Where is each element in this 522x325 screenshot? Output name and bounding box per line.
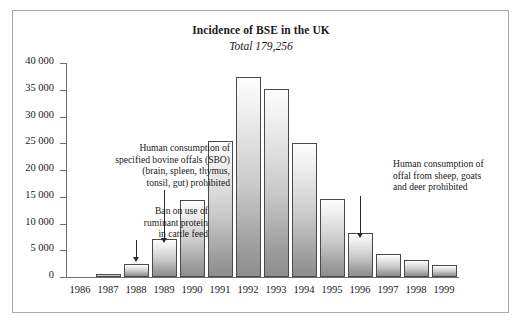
arrow-shaft xyxy=(360,196,361,233)
y-axis-tick-label: 30 000 xyxy=(25,109,54,120)
x-axis-tick-label: 1989 xyxy=(150,284,178,295)
arrow-shaft xyxy=(136,240,137,257)
x-axis-tick-label: 1987 xyxy=(94,284,122,295)
y-axis-tick-mark xyxy=(60,90,66,91)
chart-title: Incidence of BSE in the UK xyxy=(0,24,522,36)
y-axis-tick-mark xyxy=(60,63,66,64)
y-axis-tick-mark xyxy=(60,197,66,198)
y-axis-tick-mark xyxy=(60,117,66,118)
bar xyxy=(404,260,429,277)
chart-figure: Incidence of BSE in the UK Total 179,256… xyxy=(0,0,522,325)
x-axis-tick-label: 1993 xyxy=(262,284,290,295)
y-axis-line xyxy=(66,63,67,278)
y-axis-tick-label: 5 000 xyxy=(30,242,54,253)
bar xyxy=(264,89,289,277)
annotation-ban: Ban on use of ruminant protein in cattle… xyxy=(74,205,208,240)
arrow-head xyxy=(133,257,139,262)
bar xyxy=(96,274,121,277)
annotation-arrow-ban xyxy=(132,240,141,262)
x-axis-tick-label: 1995 xyxy=(318,284,346,295)
y-axis-tick-label: 0 xyxy=(49,269,54,280)
y-axis-tick-mark xyxy=(60,143,66,144)
y-axis-tick-label: 25 000 xyxy=(25,135,54,146)
x-axis-tick-label: 1997 xyxy=(374,284,402,295)
bar xyxy=(292,143,317,277)
x-axis-tick-label: 1986 xyxy=(66,284,94,295)
bar xyxy=(432,265,457,277)
y-axis-tick-mark xyxy=(60,170,66,171)
y-axis-tick-label: 40 000 xyxy=(25,55,54,66)
x-axis-tick-label: 1996 xyxy=(346,284,374,295)
annotation-sbo: Human consumption of specified bovine of… xyxy=(72,142,230,188)
chart-subtitle: Total 179,256 xyxy=(0,40,522,52)
x-axis-tick-label: 1994 xyxy=(290,284,318,295)
bar xyxy=(320,199,345,277)
annotation-arrow-offal xyxy=(356,196,365,238)
bar xyxy=(152,239,177,277)
y-axis-tick-label: 15 000 xyxy=(25,189,54,200)
x-axis-tick-label: 1990 xyxy=(178,284,206,295)
bar xyxy=(348,233,373,277)
y-axis-tick-label: 35 000 xyxy=(25,82,54,93)
x-axis-tick-label: 1992 xyxy=(234,284,262,295)
y-axis-tick-mark xyxy=(60,250,66,251)
bar xyxy=(376,254,401,277)
bar xyxy=(236,77,261,277)
bar xyxy=(124,264,149,277)
arrow-head xyxy=(357,233,363,238)
annotation-offal: Human consumption of offal from sheep, g… xyxy=(393,158,509,193)
x-axis-tick-label: 1991 xyxy=(206,284,234,295)
y-axis-tick-label: 10 000 xyxy=(25,216,54,227)
y-axis-tick-mark xyxy=(60,277,66,278)
y-axis-tick-label: 20 000 xyxy=(25,162,54,173)
y-axis-tick-mark xyxy=(60,224,66,225)
x-axis-tick-label: 1999 xyxy=(430,284,458,295)
x-axis-tick-label: 1998 xyxy=(402,284,430,295)
x-axis-tick-label: 1988 xyxy=(122,284,150,295)
x-axis-line xyxy=(66,277,459,278)
